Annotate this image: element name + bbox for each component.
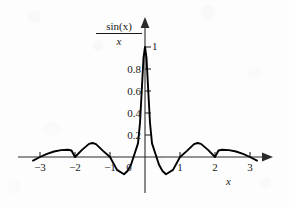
y-tick-label-0.8: 0.8 [114,64,141,75]
x-tick-label-1: 1 [174,162,186,173]
x-axis-title: x [226,176,231,187]
y-tick-label-0.4: 0.4 [114,108,141,119]
y-axis-title: sin(x) x [96,20,142,47]
x-tick-label-3: 3 [244,162,256,173]
x-tick-label-2: 2 [209,162,221,173]
figure-canvas: sin(x) x −3 −2 −1 0 1 2 3 0.2 0.4 0.6 0.… [0,0,289,208]
y-tick-label-0.2: 0.2 [114,130,141,141]
x-tick-label-0: 0 [123,162,135,173]
y-axis-title-denominator: x [96,34,142,47]
y-tick-label-1: 1 [152,41,158,52]
x-axis-arrow-icon [262,153,273,162]
y-tick-label-0.6: 0.6 [114,86,141,97]
y-axis-title-numerator: sin(x) [96,20,142,34]
x-tick-label--1: −1 [101,162,119,173]
plot-area [0,0,289,208]
x-tick-label--2: −2 [66,162,84,173]
x-tick-label--3: −3 [31,162,49,173]
